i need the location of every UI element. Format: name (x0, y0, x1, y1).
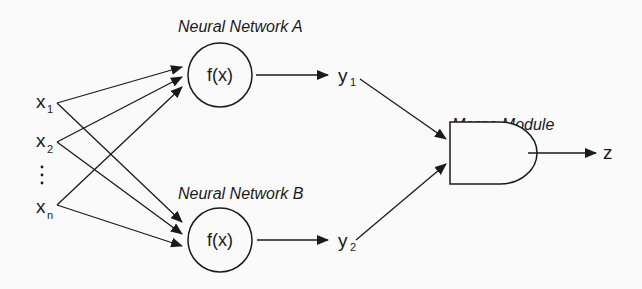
svg-text:x: x (36, 130, 46, 151)
output-y1: y (338, 65, 348, 86)
input-x2: x 2 (36, 130, 53, 155)
network-a: Neural Network A f(x) y 1 (178, 18, 356, 107)
svg-text:2: 2 (47, 143, 53, 155)
merge-module: Merge Module z (450, 116, 613, 184)
edges-to-network-b (57, 103, 182, 246)
svg-text:1: 1 (350, 76, 356, 88)
network-a-function: f(x) (207, 65, 233, 85)
svg-text:2: 2 (350, 241, 356, 253)
input-xn: x n (36, 196, 53, 221)
svg-text:x: x (36, 91, 46, 112)
svg-text:n: n (47, 209, 53, 221)
diagram-canvas: x 1 x 2 x n Neural Network A f(x) y 1 Ne… (0, 0, 642, 289)
svg-text:x: x (36, 196, 46, 217)
edges-to-merge (356, 79, 446, 240)
edges-to-network-a (57, 67, 182, 205)
merge-gate-shape (450, 122, 537, 184)
svg-text:1: 1 (47, 103, 53, 115)
output-z: z (603, 142, 613, 163)
network-a-title: Neural Network A (178, 18, 303, 35)
network-b: Neural Network B f(x) y 2 (178, 185, 356, 272)
network-b-function: f(x) (207, 230, 233, 250)
output-y2: y (338, 230, 348, 251)
network-b-title: Neural Network B (178, 185, 304, 202)
input-x1: x 1 (36, 91, 53, 115)
input-ellipsis (41, 166, 44, 185)
